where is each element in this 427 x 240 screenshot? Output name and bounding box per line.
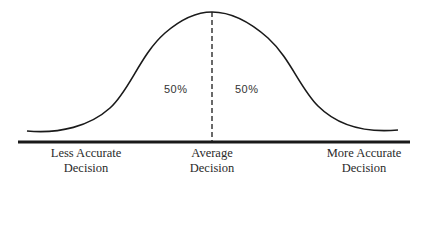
- axis-label-more-accurate-line2: Decision: [312, 161, 416, 176]
- axis-label-average: Average Decision: [172, 146, 252, 176]
- axis-label-less-accurate-line1: Less Accurate: [36, 146, 136, 161]
- axis-label-less-accurate-line2: Decision: [36, 161, 136, 176]
- axis-label-average-line2: Decision: [172, 161, 252, 176]
- axis-label-average-line1: Average: [172, 146, 252, 161]
- axis-label-less-accurate: Less Accurate Decision: [36, 146, 136, 176]
- right-region-percent: 50%: [235, 83, 259, 95]
- left-region-percent: 50%: [164, 83, 188, 95]
- axis-label-more-accurate-line1: More Accurate: [312, 146, 416, 161]
- axis-label-more-accurate: More Accurate Decision: [312, 146, 416, 176]
